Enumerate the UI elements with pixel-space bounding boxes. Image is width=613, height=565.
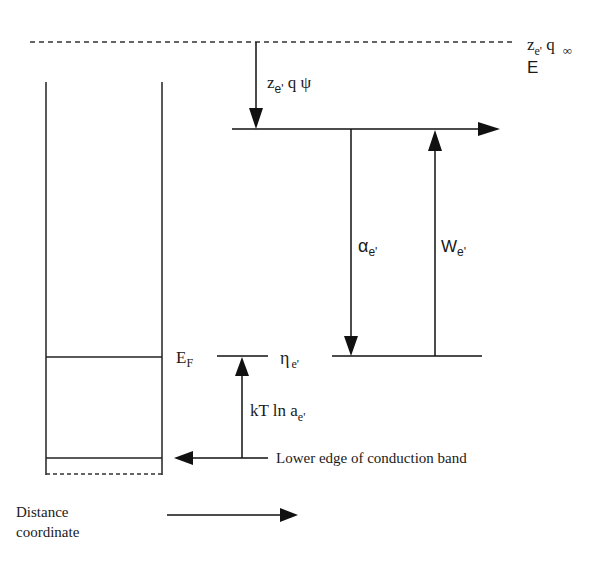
electrochemical-potential-label: ηe' — [280, 348, 299, 371]
surface-potential-arrowhead — [249, 108, 263, 129]
fermi-level-label: EF — [176, 348, 193, 370]
work-function-label: We' — [441, 237, 466, 259]
chemical-potential-label: αe' — [358, 236, 377, 259]
activity-term-label: kT ln ae' — [250, 401, 305, 424]
energy-diagram: ze' q∞ E ze' q ψ αe' We' EF ηe' kT ln ae… — [0, 0, 613, 565]
distance-axis-label-1: Distance — [16, 504, 69, 520]
surface-potential-label: ze' q ψ — [267, 73, 312, 96]
vacuum-level-label-e: E — [527, 58, 538, 77]
distance-arrowhead — [280, 508, 298, 522]
distance-axis-label-2: coordinate — [16, 524, 80, 540]
conduction-band-label: Lower edge of conduction band — [276, 450, 467, 466]
work-function-arrowhead — [428, 130, 442, 151]
vacuum-level-label: ze' q∞ — [527, 35, 572, 58]
activity-arrowhead — [235, 357, 249, 376]
chemical-potential-arrowhead — [344, 336, 358, 356]
conduction-band-arrowhead — [174, 451, 193, 465]
inner-level-arrowhead — [478, 122, 500, 136]
